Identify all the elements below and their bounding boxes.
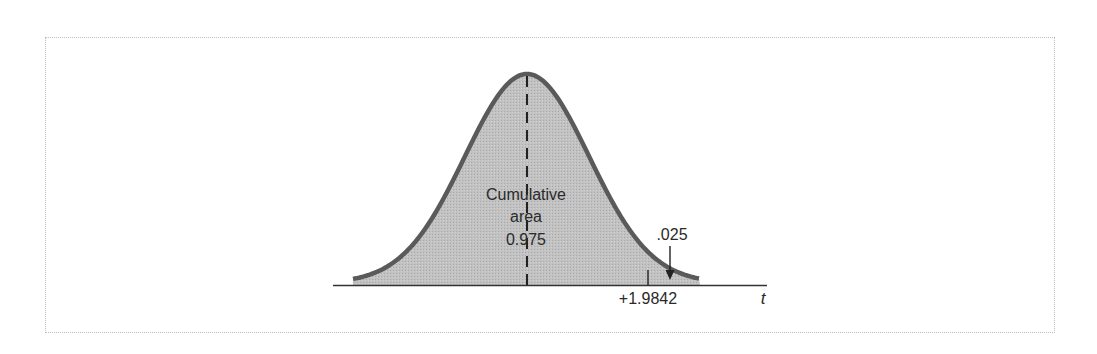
center-label-value: 0.975 xyxy=(506,231,546,248)
center-label-area: area xyxy=(510,208,542,225)
axis-label-t: t xyxy=(761,289,767,308)
critical-value-label: +1.9842 xyxy=(619,290,677,307)
t-distribution-chart: Cumulative area 0.975 .025 +1.9842 t xyxy=(0,0,1097,354)
center-label-cumulative: Cumulative xyxy=(486,186,566,203)
tail-area-label: .025 xyxy=(656,226,687,243)
